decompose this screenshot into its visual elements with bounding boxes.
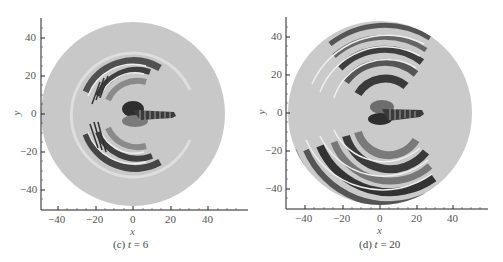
xtick-label: −40 xyxy=(295,213,312,224)
xtick-label: −20 xyxy=(86,214,103,225)
xtick-label: −40 xyxy=(48,214,65,225)
ytick-label: −20 xyxy=(265,145,282,156)
panel-caption: (c) t = 6 xyxy=(113,238,148,250)
ytick-label: 40 xyxy=(25,32,36,43)
ytick-label: −40 xyxy=(20,184,37,195)
xtick-label: −20 xyxy=(333,213,350,224)
ytick-label: 40 xyxy=(271,31,282,42)
y-axis-title: y xyxy=(10,111,22,116)
panel-d: 40 20 0 −20 −40 −40 −20 0 20 40 x y (d) … xyxy=(250,0,500,262)
xtick-label: 40 xyxy=(202,214,213,225)
ytick-label: −40 xyxy=(265,183,282,194)
xtick-label: 0 xyxy=(377,213,383,224)
y-axis-title: y xyxy=(255,110,267,115)
xtick-label: 40 xyxy=(447,213,458,224)
x-axis-title: x xyxy=(130,225,135,237)
ytick-label: −20 xyxy=(20,146,37,157)
ytick-label: 20 xyxy=(25,70,36,81)
xtick-label: 20 xyxy=(165,214,176,225)
xtick-label: 0 xyxy=(130,214,136,225)
panel-c: 40 20 0 −20 −40 −40 −20 0 20 40 x y (c) … xyxy=(0,0,250,262)
ytick-label: 0 xyxy=(31,108,37,119)
panel-caption: (d) t = 20 xyxy=(359,238,400,250)
xtick-label: 20 xyxy=(411,213,422,224)
ytick-label: 0 xyxy=(277,107,283,118)
ytick-label: 20 xyxy=(271,69,282,80)
x-axis-title: x xyxy=(377,224,382,236)
